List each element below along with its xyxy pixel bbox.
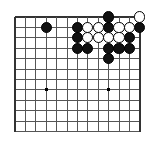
stone-white[interactable] bbox=[124, 22, 135, 33]
stone-white[interactable] bbox=[82, 32, 93, 43]
stone-black[interactable] bbox=[124, 32, 135, 43]
stone-black[interactable] bbox=[82, 43, 93, 54]
stone-black[interactable] bbox=[103, 53, 114, 64]
stone-black[interactable] bbox=[41, 22, 52, 33]
hoshi-star-point bbox=[107, 88, 110, 91]
go-board-diagram bbox=[0, 0, 164, 148]
stone-black[interactable] bbox=[103, 11, 114, 22]
stone-white[interactable] bbox=[113, 32, 124, 43]
stone-black[interactable] bbox=[113, 43, 124, 54]
stone-white[interactable] bbox=[134, 11, 145, 22]
stone-layer bbox=[0, 0, 164, 148]
hoshi-star-point bbox=[45, 88, 48, 91]
stone-black[interactable] bbox=[134, 22, 145, 33]
stone-black[interactable] bbox=[124, 43, 135, 54]
